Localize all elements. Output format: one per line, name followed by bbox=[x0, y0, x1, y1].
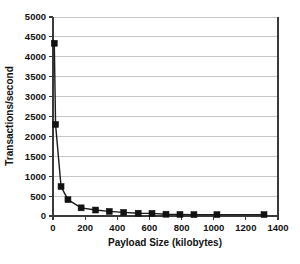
data-point-marker bbox=[149, 210, 155, 216]
x-axis-title: Payload Size (kilobytes) bbox=[108, 237, 222, 248]
x-tick-label-600: 600 bbox=[141, 222, 157, 233]
y-tick-label-4500: 4500 bbox=[25, 31, 46, 42]
x-tick-label-1000: 1000 bbox=[203, 222, 224, 233]
data-point-marker bbox=[93, 207, 99, 213]
x-tick-label-1400: 1400 bbox=[267, 222, 288, 233]
data-point-marker bbox=[106, 208, 112, 214]
y-tick-label-2500: 2500 bbox=[25, 111, 46, 122]
y-tick-label-4000: 4000 bbox=[25, 51, 46, 62]
y-axis-tick-labels: 0500100015002000250030003500400045005000 bbox=[25, 11, 46, 221]
data-point-marker bbox=[191, 212, 197, 218]
x-tick-label-800: 800 bbox=[174, 222, 190, 233]
y-axis-title: Transactions/second bbox=[4, 66, 15, 165]
x-tick-label-400: 400 bbox=[109, 222, 125, 233]
data-point-marker bbox=[177, 211, 183, 217]
y-tick-label-3500: 3500 bbox=[25, 71, 46, 82]
y-tick-label-500: 500 bbox=[30, 191, 46, 202]
y-tick-label-5000: 5000 bbox=[25, 11, 46, 22]
figure-container: 0500100015002000250030003500400045005000… bbox=[0, 0, 300, 264]
data-point-marker bbox=[65, 197, 71, 203]
data-point-marker bbox=[261, 212, 267, 218]
transactions-per-second-line-chart: 0500100015002000250030003500400045005000… bbox=[0, 0, 300, 264]
x-tick-label-1200: 1200 bbox=[235, 222, 256, 233]
y-tick-label-1000: 1000 bbox=[25, 171, 46, 182]
data-point-marker bbox=[121, 209, 127, 215]
data-point-marker bbox=[135, 210, 141, 216]
y-tick-label-0: 0 bbox=[41, 210, 46, 221]
figure-caption-strip bbox=[0, 252, 300, 264]
y-tick-label-2000: 2000 bbox=[25, 131, 46, 142]
x-axis-tick-labels: 0200400600800100012001400 bbox=[50, 222, 288, 233]
data-point-marker bbox=[163, 211, 169, 217]
y-tick-label-1500: 1500 bbox=[25, 151, 46, 162]
data-point-marker bbox=[78, 205, 84, 211]
x-tick-label-0: 0 bbox=[50, 222, 55, 233]
y-tick-label-3000: 3000 bbox=[25, 91, 46, 102]
data-point-marker bbox=[214, 212, 220, 218]
data-point-marker bbox=[53, 121, 59, 127]
data-point-marker bbox=[51, 40, 57, 46]
x-tick-label-200: 200 bbox=[77, 222, 93, 233]
data-point-marker bbox=[58, 184, 64, 190]
